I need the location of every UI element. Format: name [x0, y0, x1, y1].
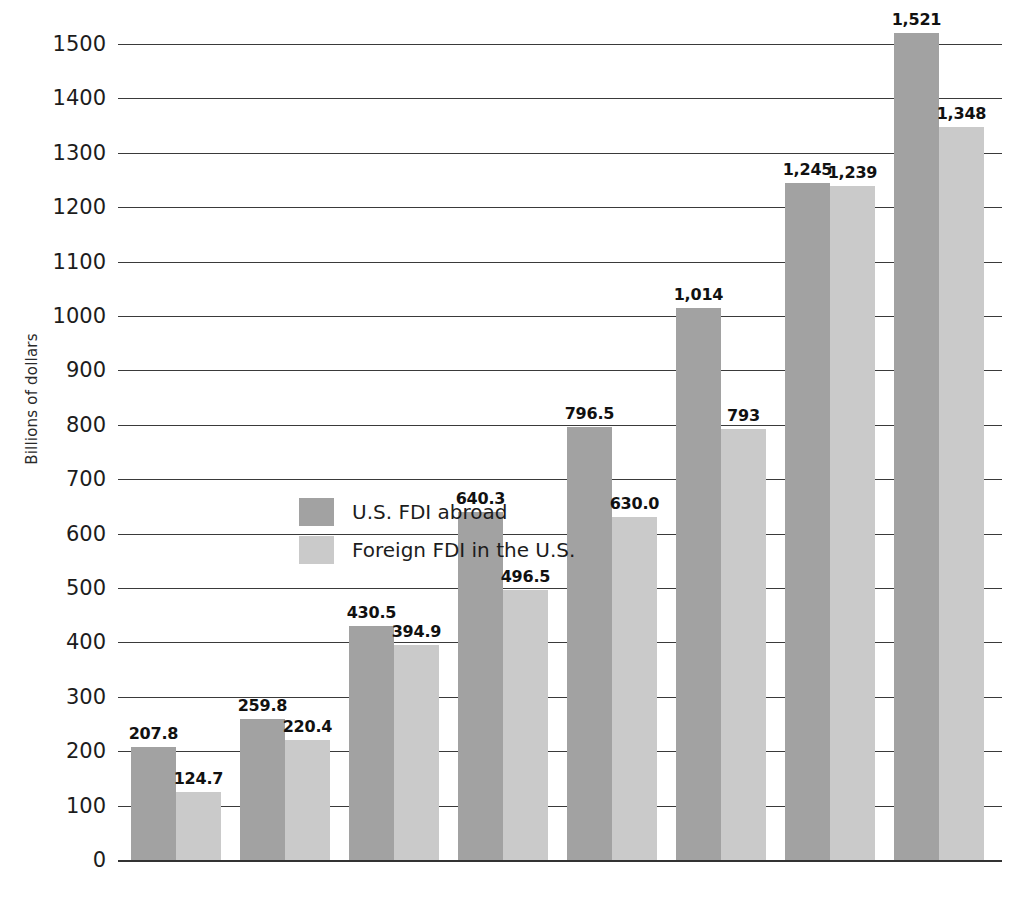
y-axis-tick-label: 0: [18, 850, 106, 871]
y-axis-tick-label: 600: [18, 523, 106, 544]
y-axis-tick-label: 400: [18, 632, 106, 653]
bar-value-label: 793: [727, 408, 760, 424]
y-axis-tick: [118, 370, 130, 371]
legend-item-1: U.S. FDI abroad: [299, 493, 575, 531]
bar-1998-series1: [676, 308, 721, 860]
bar-value-label: 496.5: [501, 569, 551, 585]
bar-1990-series1: [349, 626, 394, 860]
y-axis-tick: [118, 751, 130, 752]
bar-1996-series2: [612, 517, 657, 860]
y-axis-tick-label: 1200: [18, 197, 106, 218]
legend-swatch-icon: [299, 536, 334, 564]
y-axis-tick: [118, 207, 130, 208]
y-axis-tick: [118, 44, 130, 45]
bar-2002-series2: [939, 127, 984, 860]
gridline: [130, 153, 1002, 154]
y-axis-tick-label: 1000: [18, 306, 106, 327]
plot-area: 207.8124.7259.8220.4430.5394.9640.3496.5…: [130, 44, 1002, 860]
bar-2000-series2: [830, 186, 875, 860]
bar-1982-series1: [131, 747, 176, 860]
y-axis-tick-label: 200: [18, 741, 106, 762]
bar-1986-series1: [240, 719, 285, 860]
y-axis-tick: [118, 425, 130, 426]
y-axis-tick-label: 1300: [18, 142, 106, 163]
y-axis-tick-label: 700: [18, 469, 106, 490]
y-axis-tick: [118, 534, 130, 535]
bar-2002-series1: [894, 33, 939, 860]
bar-value-label: 796.5: [565, 406, 615, 422]
bar-value-label: 259.8: [238, 698, 288, 714]
bar-value-label: 630.0: [610, 496, 660, 512]
y-axis-tick: [118, 316, 130, 317]
fdi-bar-chart: Billions of dollars 207.8124.7259.8220.4…: [0, 0, 1035, 916]
bar-1982-series2: [176, 792, 221, 860]
y-axis-tick-label: 900: [18, 360, 106, 381]
y-axis-tick: [118, 697, 130, 698]
bar-value-label: 430.5: [347, 605, 397, 621]
legend-label: Foreign FDI in the U.S.: [352, 538, 575, 562]
y-axis-tick: [118, 98, 130, 99]
gridline: [130, 44, 1002, 45]
legend-swatch-icon: [299, 498, 334, 526]
chart-legend: U.S. FDI abroadForeign FDI in the U.S.: [299, 493, 575, 569]
y-axis-tick-label: 1400: [18, 88, 106, 109]
y-axis-tick-label: 500: [18, 578, 106, 599]
y-axis-tick: [118, 642, 130, 643]
bar-1996-series1: [567, 427, 612, 860]
bar-1986-series2: [285, 740, 330, 860]
y-axis-tick-label: 100: [18, 795, 106, 816]
y-axis-tick: [118, 479, 130, 480]
bar-value-label: 1,521: [892, 12, 942, 28]
y-axis-tick-label: 800: [18, 414, 106, 435]
y-axis-tick: [118, 153, 130, 154]
y-axis-tick-label: 1100: [18, 251, 106, 272]
bar-value-label: 207.8: [129, 726, 179, 742]
y-axis-tick-label: 300: [18, 686, 106, 707]
legend-label: U.S. FDI abroad: [352, 500, 508, 524]
bar-value-label: 220.4: [283, 719, 333, 735]
bar-1998-series2: [721, 429, 766, 860]
y-axis-tick: [118, 262, 130, 263]
bar-value-label: 1,245: [783, 162, 833, 178]
y-axis-tick-label: 1500: [18, 34, 106, 55]
legend-item-2: Foreign FDI in the U.S.: [299, 531, 575, 569]
y-axis-title: Billions of dollars: [23, 249, 41, 549]
bar-2000-series1: [785, 183, 830, 860]
y-axis-tick: [118, 806, 130, 807]
bar-1994-series2: [503, 590, 548, 860]
x-axis-line: [118, 860, 1002, 862]
bar-value-label: 1,014: [674, 287, 724, 303]
bar-value-label: 1,239: [828, 165, 878, 181]
bar-1990-series2: [394, 645, 439, 860]
gridline: [130, 98, 1002, 99]
bar-value-label: 124.7: [174, 771, 224, 787]
bar-value-label: 394.9: [392, 624, 442, 640]
bar-value-label: 1,348: [937, 106, 987, 122]
y-axis-tick: [118, 588, 130, 589]
